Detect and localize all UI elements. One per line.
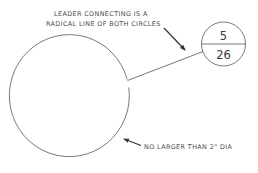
leader-line xyxy=(128,52,204,81)
size-note: NO LARGER THAN 2" DIA xyxy=(144,143,233,151)
leader-note-line2: RADICAL LINE OF BOTH CIRCLES xyxy=(46,20,161,28)
balloon-leader-diagram: 5 26 LEADER CONNECTING IS A RADICAL LINE… xyxy=(0,0,258,173)
leader-note-line1: LEADER CONNECTING IS A xyxy=(54,10,148,18)
balloon-bottom-value: 26 xyxy=(216,48,231,62)
large-circle xyxy=(9,35,129,157)
size-note-arrow xyxy=(124,139,141,146)
leader-note-arrow xyxy=(164,28,185,50)
balloon-top-value: 5 xyxy=(220,29,227,43)
